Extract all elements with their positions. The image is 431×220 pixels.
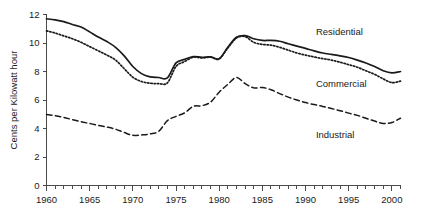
y-tick-label: 10	[29, 37, 40, 48]
y-axis: 024681012	[29, 9, 47, 191]
x-tick-label: 1975	[165, 194, 186, 205]
y-tick-label: 4	[34, 123, 39, 134]
electricity-price-line-chart: 024681012 196019651970197519801985199019…	[0, 0, 431, 220]
y-tick-label: 2	[34, 151, 39, 162]
x-tick-label: 1995	[338, 194, 359, 205]
series-label-residential: Residential	[316, 26, 363, 37]
y-tick-label: 12	[29, 9, 40, 20]
x-tick-label: 1965	[79, 194, 100, 205]
series-labels: ResidentialCommercialIndustrial	[316, 26, 367, 140]
x-tick-label: 1985	[252, 194, 273, 205]
y-axis-title: Cents per Kilowatt hour	[8, 51, 19, 150]
y-tick-label: 8	[34, 66, 39, 77]
x-axis: 196019651970197519801985199019952000	[36, 186, 403, 205]
series-label-commercial: Commercial	[316, 78, 367, 89]
y-tick-label: 6	[34, 94, 39, 105]
y-tick-label: 0	[34, 180, 39, 191]
series-label-industrial: Industrial	[316, 129, 355, 140]
chart-container: 024681012 196019651970197519801985199019…	[0, 0, 431, 220]
x-tick-label: 1980	[209, 194, 230, 205]
x-tick-label: 1990	[295, 194, 316, 205]
x-tick-label: 2000	[381, 194, 402, 205]
x-tick-label: 1960	[36, 194, 57, 205]
x-tick-label: 1970	[122, 194, 143, 205]
